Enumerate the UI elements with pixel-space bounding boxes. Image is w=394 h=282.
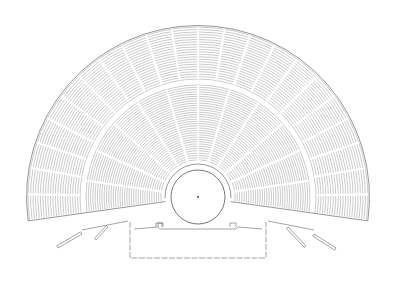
- aisle: [234, 35, 250, 85]
- theater-plan: [0, 0, 394, 282]
- ramp: [57, 232, 82, 248]
- thymele-mark: [197, 196, 199, 198]
- aisle: [233, 181, 309, 192]
- analemma-wall: [231, 202, 368, 221]
- retaining-wall: [268, 221, 314, 230]
- aisle: [28, 194, 80, 195]
- aisle: [216, 29, 224, 80]
- aisle: [314, 168, 365, 177]
- ramp: [286, 227, 306, 248]
- aisle: [113, 124, 171, 175]
- ramp: [313, 234, 336, 250]
- orchestra-circle: [171, 170, 225, 224]
- aisle: [30, 168, 81, 177]
- aisle: [224, 124, 282, 175]
- skene-stage-building: [130, 222, 266, 258]
- aisle: [172, 29, 180, 80]
- analemma-wall: [28, 202, 165, 221]
- aisle: [87, 181, 163, 192]
- retaining-wall: [82, 221, 128, 230]
- parodos-ramps: [57, 221, 336, 250]
- proskenion-front: [134, 227, 262, 229]
- aisle: [316, 194, 368, 195]
- ramp: [94, 226, 108, 240]
- aisle: [146, 35, 162, 85]
